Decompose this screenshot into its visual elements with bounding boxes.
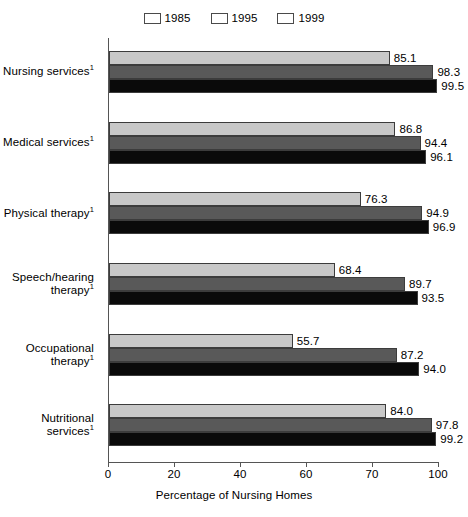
y-axis-line (108, 38, 109, 462)
bar-1999[interactable] (109, 291, 418, 305)
x-tick (372, 462, 373, 467)
bar-value-label: 98.3 (437, 65, 460, 79)
legend-entry-1995: 1995 (211, 13, 258, 24)
x-tick (174, 462, 175, 467)
bar-row: 98.3 (109, 65, 438, 79)
legend-swatch-1985 (144, 13, 161, 24)
bar-value-label: 96.9 (433, 220, 456, 234)
bar-value-label: 84.0 (390, 404, 413, 418)
legend-entry-1999: 1999 (277, 13, 324, 24)
legend-label-1985: 1985 (165, 13, 191, 24)
category-label: Speech/hearingtherapy1 (12, 271, 94, 297)
bar-group: 84.097.899.2 (109, 404, 438, 446)
bar-1999[interactable] (109, 220, 429, 234)
bar-1999[interactable] (109, 79, 437, 93)
x-axis-line (108, 462, 438, 463)
bar-row: 87.2 (109, 348, 438, 362)
bar-value-label: 99.5 (441, 79, 464, 93)
bar-value-label: 68.4 (339, 263, 362, 277)
bar-1999[interactable] (109, 150, 426, 164)
category-label: Occupationaltherapy1 (26, 342, 94, 368)
bar-row: 94.0 (109, 362, 438, 376)
legend-label-1995: 1995 (232, 13, 258, 24)
bar-row: 93.5 (109, 291, 438, 305)
bar-row: 96.9 (109, 220, 438, 234)
bar-group: 85.198.399.5 (109, 51, 438, 93)
bar-1999[interactable] (109, 432, 436, 446)
bar-row: 96.1 (109, 150, 438, 164)
bar-value-label: 94.9 (426, 206, 449, 220)
bar-row: 94.9 (109, 206, 438, 220)
bar-row: 94.4 (109, 136, 438, 150)
plot-area: 85.198.399.586.894.496.176.394.996.968.4… (108, 38, 438, 462)
x-axis-title: Percentage of Nursing Homes (0, 489, 468, 501)
bar-value-label: 86.8 (399, 122, 422, 136)
bar-1995[interactable] (109, 206, 422, 220)
bar-1985[interactable] (109, 122, 395, 136)
legend-label-1999: 1999 (298, 13, 324, 24)
bar-group: 55.787.294.0 (109, 334, 438, 376)
category-label: Nursing services1 (3, 65, 94, 78)
bar-row: 68.4 (109, 263, 438, 277)
x-tick (108, 462, 109, 467)
chart-legend: 1985 1995 1999 (0, 13, 468, 24)
bar-1985[interactable] (109, 263, 335, 277)
bar-value-label: 94.0 (423, 362, 446, 376)
bar-row: 85.1 (109, 51, 438, 65)
bar-1985[interactable] (109, 334, 293, 348)
bar-1985[interactable] (109, 192, 361, 206)
x-tick-label: 40 (234, 468, 247, 481)
bar-1995[interactable] (109, 136, 421, 150)
bar-1995[interactable] (109, 65, 433, 79)
bar-row: 99.2 (109, 432, 438, 446)
bar-row: 76.3 (109, 192, 438, 206)
bar-row: 86.8 (109, 122, 438, 136)
bar-1999[interactable] (109, 362, 419, 376)
bar-1985[interactable] (109, 404, 386, 418)
bar-row: 97.8 (109, 418, 438, 432)
x-tick-label: 0 (105, 468, 112, 481)
bar-value-label: 97.8 (436, 418, 459, 432)
bar-1995[interactable] (109, 418, 432, 432)
bar-value-label: 96.1 (430, 150, 453, 164)
x-tick (240, 462, 241, 467)
legend-entry-1985: 1985 (144, 13, 191, 24)
bar-value-label: 94.4 (425, 136, 448, 150)
category-label: Nutritionalservices1 (41, 412, 94, 438)
bar-1995[interactable] (109, 348, 397, 362)
x-tick (438, 462, 439, 467)
bar-value-label: 87.2 (401, 348, 424, 362)
x-tick-label: 70 (366, 468, 379, 481)
x-tick-label: 60 (300, 468, 313, 481)
bar-1985[interactable] (109, 51, 390, 65)
bar-row: 89.7 (109, 277, 438, 291)
x-tick-label: 100 (428, 468, 448, 481)
x-tick-label: 20 (168, 468, 181, 481)
legend-swatch-1999 (277, 13, 294, 24)
bar-row: 99.5 (109, 79, 438, 93)
bar-value-label: 93.5 (422, 291, 445, 305)
bar-row: 55.7 (109, 334, 438, 348)
bar-group: 68.489.793.5 (109, 263, 438, 305)
bar-group: 76.394.996.9 (109, 192, 438, 234)
bar-value-label: 55.7 (297, 334, 320, 348)
bar-value-label: 85.1 (394, 51, 417, 65)
legend-swatch-1995 (211, 13, 228, 24)
bar-group: 86.894.496.1 (109, 122, 438, 164)
bar-1995[interactable] (109, 277, 405, 291)
bar-value-label: 99.2 (440, 432, 463, 446)
x-tick (306, 462, 307, 467)
category-label: Medical services1 (3, 136, 94, 149)
category-label: Physical therapy1 (4, 207, 94, 220)
bar-value-label: 89.7 (409, 277, 432, 291)
bar-value-label: 76.3 (365, 192, 388, 206)
bar-row: 84.0 (109, 404, 438, 418)
